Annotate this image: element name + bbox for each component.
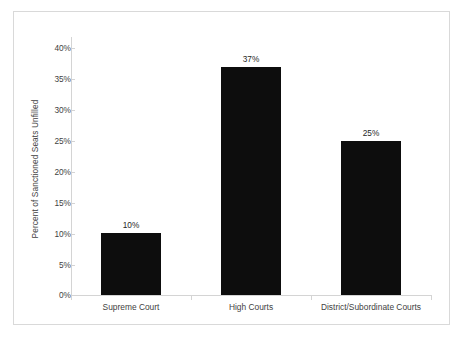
x-category-label: District/Subordinate Courts bbox=[306, 303, 436, 311]
bar-value-label: 37% bbox=[221, 55, 281, 63]
y-tick-mark bbox=[71, 265, 75, 266]
y-tick-label: 0% bbox=[45, 291, 71, 299]
y-tick-label: 10% bbox=[45, 230, 71, 238]
y-tick-mark bbox=[71, 79, 75, 80]
x-tick-mark bbox=[311, 295, 312, 300]
bar-supreme-court bbox=[101, 233, 161, 295]
chart-frame: Percent of Sanctioned Seats Unfilled 40%… bbox=[13, 11, 450, 325]
x-category-label: High Courts bbox=[196, 303, 306, 311]
x-tick-mark bbox=[71, 295, 72, 300]
x-tick-mark bbox=[191, 295, 192, 300]
y-tick-label: 15% bbox=[45, 199, 71, 207]
bar-value-label: 10% bbox=[101, 221, 161, 229]
x-tick-mark bbox=[431, 295, 432, 300]
bar-value-label: 25% bbox=[341, 129, 401, 137]
y-tick-label: 30% bbox=[45, 106, 71, 114]
y-tick-label: 35% bbox=[45, 75, 71, 83]
x-axis-line bbox=[71, 295, 432, 296]
y-tick-label: 5% bbox=[45, 261, 71, 269]
y-tick-label: 25% bbox=[45, 137, 71, 145]
y-tick-mark bbox=[71, 234, 75, 235]
y-axis-tick-labels: 40% 35% 30% 25% 20% 15% 10% 5% 0% bbox=[34, 12, 71, 326]
y-tick-mark bbox=[71, 203, 75, 204]
bar-high-courts bbox=[221, 67, 281, 295]
y-tick-mark bbox=[71, 172, 75, 173]
x-category-label: Supreme Court bbox=[76, 303, 186, 311]
y-tick-mark bbox=[71, 48, 75, 49]
y-tick-label: 20% bbox=[45, 168, 71, 176]
y-tick-label: 40% bbox=[45, 44, 71, 52]
y-tick-mark bbox=[71, 141, 75, 142]
y-axis-line bbox=[71, 37, 72, 296]
bar-district-subordinate-courts bbox=[341, 141, 401, 295]
y-tick-mark bbox=[71, 110, 75, 111]
